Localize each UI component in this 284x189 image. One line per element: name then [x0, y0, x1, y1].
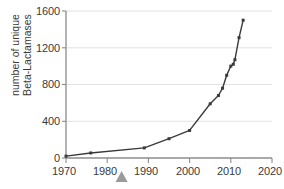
data-point-marker [225, 74, 228, 77]
data-point-marker [143, 146, 146, 149]
x-tick-label-2020: 2020 [258, 165, 282, 177]
data-point-marker [168, 137, 171, 140]
data-point-marker [232, 63, 235, 66]
chart-container: 1600 1200 800 400 0 1970 1980 1990 2000 … [0, 0, 284, 189]
y-tick-label-400: 400 [42, 115, 60, 127]
triangle-marker-icon [116, 171, 128, 182]
data-point-marker [238, 36, 241, 39]
x-tick-label-1970: 1970 [52, 165, 76, 177]
x-tick-label-1980: 1980 [93, 165, 117, 177]
data-point-marker [188, 129, 191, 132]
y-tick-label-1200: 1200 [36, 42, 60, 54]
y-tick-label-0: 0 [54, 152, 60, 164]
data-point-marker [242, 19, 245, 22]
data-series-line [66, 20, 243, 156]
x-tick-label-1990: 1990 [134, 165, 158, 177]
y-tick-label-800: 800 [42, 78, 60, 90]
data-point-marker [221, 87, 224, 90]
y-tick-label-1600: 1600 [36, 5, 60, 17]
data-point-marker [209, 102, 212, 105]
data-point-markers [65, 19, 245, 158]
y-axis-title-line-1: number of unique [9, 14, 21, 96]
x-axis [66, 158, 272, 163]
y-axis-title: number of unique Beta-Lactamases [6, 0, 36, 125]
data-point-marker [89, 151, 92, 154]
chart-plot-area [0, 0, 284, 189]
y-axis-title-line-2: Beta-Lactamases [21, 14, 33, 96]
x-tick-label-2010: 2010 [217, 165, 241, 177]
data-point-marker [217, 94, 220, 97]
data-point-marker [65, 155, 68, 158]
x-tick-label-2000: 2000 [176, 165, 200, 177]
y-axis [62, 11, 66, 158]
data-point-marker [233, 58, 236, 61]
